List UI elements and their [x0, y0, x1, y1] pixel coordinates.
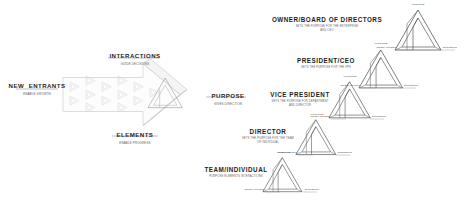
hierarchy-label-vice-president: VICE PRESIDENT SETS THE PURPOSE FOR DEPA…: [250, 91, 350, 107]
owner-board-sub2: AND CEO: [268, 29, 386, 32]
vertex-right-2: ELEMENTS: [404, 84, 418, 87]
vertex-top-5: PURPOSE: [278, 151, 291, 154]
vice-president-title: VICE PRESIDENT: [250, 91, 350, 98]
director-sub2: OR INDIVIDUAL: [218, 141, 318, 144]
elements-sub: ENABLE PROGRESS: [104, 142, 166, 145]
hierarchy-label-president-ceo: PRESIDENT/CEO SETS THE PURPOSE FOR THE V…: [276, 57, 376, 69]
interactions-title: INTERACTIONS: [109, 53, 160, 61]
label-purpose: PURPOSE GIVES DIRECTION: [200, 84, 256, 107]
vertex-right-1: ELEMENTS: [443, 46, 457, 49]
hierarchy-label-director: DIRECTOR SETS THE PURPOSE FOR THE TEAM O…: [218, 128, 318, 144]
new-entrants-line2: ENTRANTS: [29, 83, 66, 91]
hierarchy-label-owner-board: OWNER/BOARD OF DIRECTORS SETS THE PURPOS…: [268, 16, 386, 32]
team-individual-sub1: PURPOSE ELEMENTS INTERACTIONS: [186, 175, 286, 178]
vertex-right-5: ELEMENTS: [305, 188, 319, 191]
vertex-top-2: PURPOSE: [375, 42, 388, 45]
vertex-right-3: ELEMENTS: [372, 115, 386, 118]
label-elements: ELEMENTS ENABLE PROGRESS: [104, 123, 166, 146]
vertex-top-4: PURPOSE: [311, 113, 324, 116]
director-sub1: SETS THE PURPOSE FOR THE TEAM: [218, 137, 318, 140]
interactions-sub: GUIDE DECISIONS: [104, 63, 166, 66]
team-individual-title: TEAM/INDIVIDUAL: [186, 166, 286, 173]
vice-president-sub2: AND DIRECTOR: [250, 104, 350, 107]
vertex-left-2: INTERACTIONS: [340, 84, 360, 87]
vertex-right-4: ELEMENTS: [338, 151, 352, 154]
hierarchy-label-team-individual: TEAM/INDIVIDUAL PURPOSE ELEMENTS INTERAC…: [186, 166, 286, 178]
purpose-title: PURPOSE: [212, 93, 245, 101]
diagram-canvas: NEW ENTRANTS ENABLE GROWTH INTERACTIONS …: [0, 0, 473, 210]
president-ceo-sub1: SETS THE PURPOSE FOR THE VPS: [276, 66, 376, 69]
new-entrants-line1: NEW: [9, 83, 25, 91]
vice-president-sub1: SETS THE PURPOSE FOR DEPARTMENT: [250, 100, 350, 103]
label-interactions: INTERACTIONS GUIDE DECISIONS: [104, 44, 166, 67]
owner-board-sub1: SETS THE PURPOSE FOR THE ENTERPRISE: [268, 25, 386, 28]
new-entrants-sub: ENABLE GROWTH: [6, 93, 68, 96]
label-new-entrants: NEW ENTRANTS ENABLE GROWTH: [6, 74, 68, 97]
vertex-top-3: PURPOSE: [344, 75, 357, 78]
purpose-sub: GIVES DIRECTION: [200, 103, 256, 106]
elements-title: ELEMENTS: [117, 132, 154, 140]
owner-board-title: OWNER/BOARD OF DIRECTORS: [268, 16, 386, 23]
director-title: DIRECTOR: [218, 128, 318, 135]
vertex-top-1: PURPOSE: [412, 3, 425, 6]
president-ceo-title: PRESIDENT/CEO: [276, 57, 376, 64]
vertex-left-1: INTERACTIONS: [376, 46, 396, 49]
vertex-left-5: INTERACTIONS: [244, 188, 264, 191]
